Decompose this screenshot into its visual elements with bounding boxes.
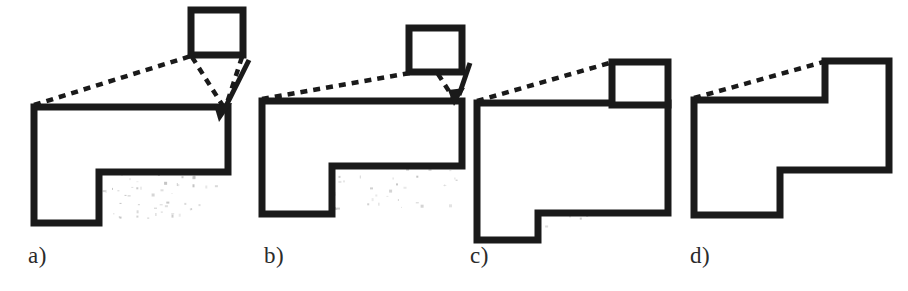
panel-b <box>262 28 470 214</box>
panel-d-merged-polygon <box>694 61 889 215</box>
panel-c <box>477 62 668 240</box>
panel-c-attached-box <box>612 62 668 105</box>
panel-a-inset-box <box>191 10 243 55</box>
panel-label-c: c) <box>470 243 489 269</box>
panel-label-b: b) <box>264 243 284 269</box>
panel-label-d: d) <box>690 243 710 269</box>
panel-label-a: a) <box>28 243 47 269</box>
panel-a <box>34 10 249 223</box>
panel-b-main-polygon <box>262 101 462 214</box>
panel-b-dashed-correspondence-left <box>262 73 410 99</box>
panel-a-dashed-correspondence-left <box>34 56 191 105</box>
panel-a-dashed-correspondence-mid <box>192 57 223 106</box>
panel-c-main-polygon <box>477 103 668 240</box>
panel-d <box>694 61 889 215</box>
figure-canvas <box>0 0 908 291</box>
panel-d-dashed-correspondence <box>694 61 827 98</box>
panel-c-dashed-correspondence <box>477 62 613 101</box>
panel-a-arrow-shaft <box>224 60 249 110</box>
panel-b-inset-box <box>409 28 462 72</box>
